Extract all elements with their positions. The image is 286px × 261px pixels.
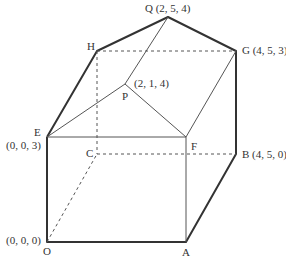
label-O-coords: (0, 0, 0): [6, 235, 41, 246]
label-G: G (4, 5, 3): [242, 45, 286, 56]
label-F: F: [191, 141, 197, 152]
edge-EP: [47, 84, 125, 137]
diagram-lines: [0, 0, 286, 261]
label-C: C: [86, 148, 93, 159]
label-A: A: [182, 247, 190, 258]
label-O: O: [43, 246, 51, 257]
edge-OC-hidden: [47, 154, 97, 242]
edge-FG: [186, 51, 236, 137]
solid-diagram: Q (2, 5, 4) G (4, 5, 3) H (2, 1, 4) P E …: [0, 0, 286, 261]
label-E: E: [34, 127, 41, 138]
label-P: P: [122, 91, 128, 102]
label-Q: Q (2, 5, 4): [145, 3, 191, 14]
label-E-coords: (0, 0, 3): [6, 140, 41, 151]
edge-PF: [125, 84, 186, 137]
label-B: B (4, 5, 0): [242, 149, 286, 160]
label-H: H: [87, 41, 95, 52]
label-P-coords: (2, 1, 4): [134, 78, 169, 89]
